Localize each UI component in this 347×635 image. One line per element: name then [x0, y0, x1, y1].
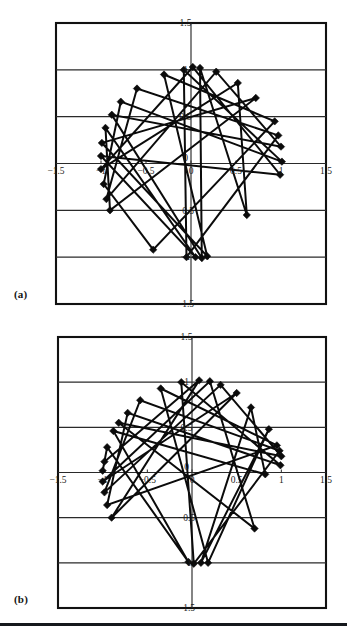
x-tick-label: 0.5 [230, 166, 242, 176]
y-tick-label: −0.5 [177, 206, 194, 216]
panel-a: −1.5−1−0.500.511.5−1.5−1−0.50.511.50 (a) [0, 0, 347, 318]
y-tick-label: 1 [184, 377, 189, 387]
x-tick-label: −1 [96, 166, 106, 176]
y-tick-label: 1 [183, 65, 188, 75]
panel-label-b: (b) [14, 593, 28, 605]
panel-b: −1.5−1−0.500.511.5−1.5−1−0.50.511.50 (b) [0, 317, 347, 617]
y-tick-label: 0 [183, 153, 188, 163]
y-tick-label: 1.5 [180, 18, 192, 28]
scatter-plot-b: −1.5−1−0.500.511.5−1.5−1−0.50.511.50 [0, 317, 347, 617]
x-tick-label: 0 [189, 166, 194, 176]
x-tick-label: 0 [190, 475, 195, 485]
x-tick-label: 1.5 [320, 475, 332, 485]
x-tick-label: −0.5 [139, 475, 156, 485]
bottom-horizontal-rule [0, 623, 347, 626]
x-tick-label: 1 [279, 166, 284, 176]
x-tick-label: 1.5 [320, 166, 332, 176]
x-tick-label: 1 [279, 475, 284, 485]
x-tick-label: −1.5 [47, 166, 64, 176]
y-tick-label: −0.5 [178, 513, 195, 523]
y-tick-label: −1 [180, 252, 190, 262]
y-tick-label: 0 [184, 462, 189, 472]
y-tick-label: −1.5 [177, 299, 194, 309]
y-tick-label: −1.5 [178, 603, 195, 613]
y-tick-label: 1.5 [181, 332, 193, 342]
panel-label-a: (a) [14, 288, 27, 300]
y-tick-label: 0.5 [181, 423, 193, 433]
x-tick-label: −1 [98, 475, 108, 485]
figure-container: −1.5−1−0.500.511.5−1.5−1−0.50.511.50 (a)… [0, 0, 347, 635]
y-tick-label: −1 [181, 558, 191, 568]
y-tick-label: 0.5 [180, 112, 192, 122]
x-tick-label: −0.5 [137, 166, 154, 176]
scatter-plot-a: −1.5−1−0.500.511.5−1.5−1−0.50.511.50 [0, 0, 347, 318]
x-tick-label: 0.5 [231, 475, 243, 485]
x-tick-label: −1.5 [49, 475, 66, 485]
